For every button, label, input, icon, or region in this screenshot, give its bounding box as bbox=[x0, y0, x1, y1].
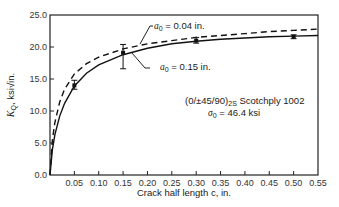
leader-line-a004 bbox=[140, 26, 153, 44]
leader-line-a015 bbox=[132, 53, 150, 68]
y-tick-label: 10.0 bbox=[29, 106, 47, 116]
y-tick-label: 25.0 bbox=[29, 10, 47, 20]
x-axis-ticks: 0.050.100.150.200.250.300.350.400.450.50… bbox=[66, 171, 327, 188]
y-tick-label: 0.0 bbox=[34, 170, 47, 180]
y-tick-label: 5.0 bbox=[34, 138, 47, 148]
x-axis-label: Crack half length c, in. bbox=[137, 187, 231, 198]
x-tick-label: 0.40 bbox=[236, 178, 254, 188]
y-tick-label: 20.0 bbox=[29, 42, 47, 52]
data-point bbox=[292, 35, 296, 39]
data-point bbox=[72, 83, 76, 87]
x-tick-label: 0.15 bbox=[114, 178, 132, 188]
label-a004: a0 = 0.04 in. bbox=[154, 20, 205, 32]
y-tick-label: 15.0 bbox=[29, 74, 47, 84]
chart: 0.05.010.015.020.025.0 0.050.100.150.200… bbox=[0, 0, 339, 207]
x-tick-label: 0.55 bbox=[309, 178, 327, 188]
sigma-label: σ0 = 46.4 ksi bbox=[208, 107, 260, 119]
data-point bbox=[194, 39, 198, 43]
y-axis-label: KQ, ksi√in. bbox=[5, 73, 18, 118]
x-tick-label: 0.10 bbox=[90, 178, 108, 188]
data-point bbox=[121, 51, 125, 55]
x-tick-label: 0.45 bbox=[261, 178, 279, 188]
label-a015: a0 = 0.15 in. bbox=[160, 61, 211, 73]
x-tick-label: 0.50 bbox=[285, 178, 303, 188]
material-label: (0/±45/90)2S Scotchply 1002 bbox=[185, 95, 304, 107]
x-tick-label: 0.05 bbox=[66, 178, 84, 188]
